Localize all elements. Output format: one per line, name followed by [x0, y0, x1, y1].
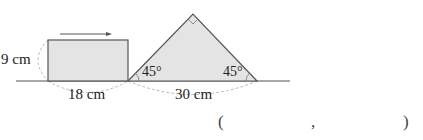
diagram	[0, 0, 423, 140]
rectangle	[48, 40, 128, 81]
left-angle-label: 45°	[142, 64, 162, 80]
height-label: 9 cm	[1, 51, 31, 68]
width-label: 18 cm	[68, 86, 105, 103]
height-arc	[38, 40, 48, 81]
answer-separator: ,	[311, 112, 315, 132]
answer-close-paren: )	[403, 112, 409, 132]
answer-open-paren: (	[218, 112, 224, 132]
base-label: 30 cm	[175, 86, 212, 103]
right-angle-label: 45°	[223, 64, 243, 80]
